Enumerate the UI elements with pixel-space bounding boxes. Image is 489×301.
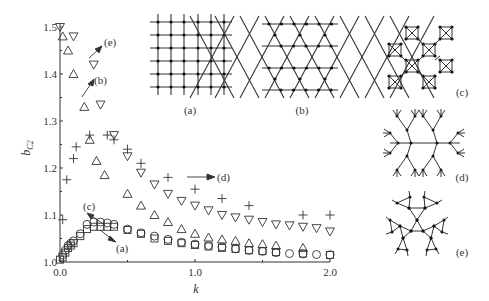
y-tick-label: 1.4 bbox=[43, 68, 57, 80]
inset-e-label: (e) bbox=[456, 246, 469, 259]
x-tick-label: 2.0 bbox=[323, 266, 337, 278]
y-tick-label: 1.2 bbox=[43, 162, 57, 174]
tick-labels: 0.01.02.01.01.11.21.31.41.5 bbox=[43, 21, 337, 278]
annotation-b: (b) bbox=[94, 74, 107, 87]
data-points bbox=[56, 24, 335, 264]
y-tick-label: 1.1 bbox=[43, 209, 57, 221]
inset-b-label: (b) bbox=[296, 104, 309, 117]
inset-kagome-lattice bbox=[190, 16, 434, 98]
annotation-c: (c) bbox=[83, 200, 96, 213]
annotation-e: (e) bbox=[104, 36, 117, 49]
inset-square-lattice bbox=[150, 14, 232, 95]
annotation-d: (d) bbox=[217, 171, 230, 184]
inset-a-label: (a) bbox=[184, 104, 197, 117]
y-tick-label: 1.0 bbox=[43, 256, 57, 268]
inset-c-label: (c) bbox=[456, 86, 469, 99]
inset-cayley-tree bbox=[383, 109, 465, 177]
annotation-a: (a) bbox=[116, 242, 129, 255]
inset-d-label: (d) bbox=[456, 171, 469, 184]
y-tick-label: 1.5 bbox=[43, 21, 57, 33]
figure: 0.01.02.01.01.11.21.31.41.5 k bC2 (e) (b… bbox=[0, 0, 489, 301]
y-axis-label: bC2 bbox=[19, 140, 35, 155]
series-triangle-down bbox=[56, 24, 335, 236]
x-axis-label: k bbox=[193, 282, 199, 296]
annotation-labels: (e) (b) (d) (c) (a) bbox=[83, 36, 230, 255]
inset-square-cluster-lattice bbox=[387, 25, 453, 89]
y-tick-label: 1.3 bbox=[43, 115, 57, 127]
x-tick-label: 1.0 bbox=[188, 266, 202, 278]
inset-husimi-cactus bbox=[386, 191, 448, 256]
